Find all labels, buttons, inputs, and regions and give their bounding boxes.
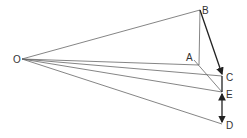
label-A: A — [186, 52, 193, 63]
line-OB — [22, 10, 200, 59]
label-B: B — [202, 5, 209, 16]
line-BA — [199, 10, 200, 65]
label-O: O — [13, 54, 21, 65]
line-OD — [22, 59, 222, 124]
vector-diagram: O B A C E D — [0, 0, 247, 138]
label-C: C — [226, 72, 233, 83]
label-D: D — [226, 120, 233, 131]
vector-BC — [200, 10, 222, 74]
line-OA — [22, 59, 199, 65]
label-E: E — [226, 89, 233, 100]
line-OE — [22, 59, 222, 92]
